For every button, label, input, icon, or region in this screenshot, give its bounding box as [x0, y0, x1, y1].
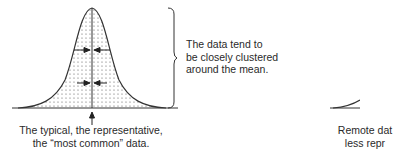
brace-text-line: be closely clustered — [186, 51, 296, 64]
left-caption: The typical, the representative, the “mo… — [0, 124, 182, 149]
caption-line: Remote dat — [305, 124, 397, 137]
curly-brace-icon — [168, 8, 177, 108]
caption-line: less repr — [305, 137, 397, 150]
right-caption: Remote dat less repr — [305, 124, 397, 149]
right-panel-curve-fragment — [333, 100, 360, 108]
caption-line: the “most common” data. — [0, 137, 182, 150]
brace-text-line: around the mean. — [186, 63, 296, 76]
caption-line: The typical, the representative, — [0, 124, 182, 137]
brace-annotation: The data tend to be closely clustered ar… — [186, 38, 296, 76]
brace-text-line: The data tend to — [186, 38, 296, 51]
